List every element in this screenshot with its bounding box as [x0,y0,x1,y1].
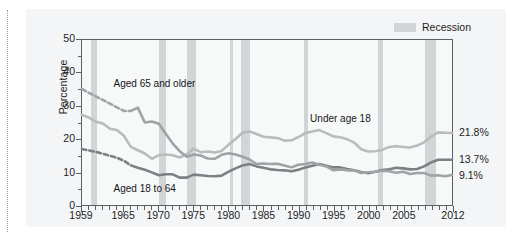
x-tick-mark [102,206,103,210]
x-tick-mark [137,206,138,210]
x-tick-mark [278,206,279,210]
x-tick-mark [348,206,349,210]
y-tick-label: 20 [45,132,75,144]
x-tick-mark [439,206,440,210]
x-tick-mark [418,206,419,210]
series-lines [82,40,452,205]
x-tick-mark [242,206,243,210]
x-tick-mark [320,206,321,210]
y-tick-mark-minor [78,156,81,157]
x-tick-mark [109,206,110,210]
x-tick-label: 1995 [322,209,345,221]
x-tick-mark [390,206,391,210]
y-tick-mark-minor [78,89,81,90]
series-line-aged-18-to-64 [131,160,452,178]
x-tick-mark [144,206,145,210]
x-tick-label: 1990 [287,209,310,221]
x-tick-mark [207,206,208,210]
x-tick-mark [95,206,96,210]
endpoint-label-aged-65-and-older: 9.1% [459,169,483,181]
y-tick-mark-minor [78,189,81,190]
x-tick-label: 2000 [357,209,380,221]
annotation-aged-18-to-64: Aged 18 to 64 [114,183,176,194]
series-line-aged-65-and-older [82,89,131,111]
y-tick-label: 40 [45,65,75,77]
series-line-under-age-18 [82,115,452,159]
x-tick-label: 1965 [111,209,134,221]
legend-label-recession: Recession [422,21,471,33]
plot-area: Aged 65 and olderUnder age 18Aged 18 to … [81,39,453,206]
x-tick-label: 1970 [147,209,170,221]
x-tick-mark [172,206,173,210]
x-tick-mark [285,206,286,210]
y-tick-mark-minor [78,123,81,124]
y-axis-title: Percentage [57,42,69,132]
figure-card: Recession Percentage Aged 65 and olderUn… [26,9,506,227]
y-tick-mark [76,106,81,107]
annotation-aged-65-and-older: Aged 65 and older [114,78,196,89]
page-margin-rule [7,10,8,232]
x-tick-mark [425,206,426,210]
y-tick-mark [76,72,81,73]
x-tick-label: 2012 [441,209,464,221]
endpoint-label-aged-18-to-64: 13.7% [459,153,489,165]
endpoint-label-under-age-18: 21.8% [459,126,489,138]
y-tick-label: 30 [45,99,75,111]
x-tick-label: 1980 [217,209,240,221]
x-tick-mark [249,206,250,210]
annotation-under-age-18: Under age 18 [310,113,371,124]
recession-swatch-icon [394,23,416,32]
y-tick-label: 10 [45,166,75,178]
x-tick-label: 2005 [392,209,415,221]
x-tick-mark [214,206,215,210]
series-line-aged-18-to-64 [82,149,131,166]
x-tick-label: 1975 [182,209,205,221]
x-tick-label: 1959 [69,209,92,221]
x-tick-mark [355,206,356,210]
x-tick-mark [432,206,433,210]
y-tick-label: 50 [45,32,75,44]
y-tick-mark [76,39,81,40]
x-tick-mark [313,206,314,210]
chart-page: Recession Percentage Aged 65 and olderUn… [0,0,522,238]
series-line-aged-65-and-older [131,108,452,177]
y-tick-mark-minor [78,56,81,57]
y-tick-mark [76,173,81,174]
x-tick-mark [179,206,180,210]
y-tick-mark [76,139,81,140]
legend: Recession [394,21,471,33]
x-tick-mark [383,206,384,210]
x-tick-label: 1985 [252,209,275,221]
